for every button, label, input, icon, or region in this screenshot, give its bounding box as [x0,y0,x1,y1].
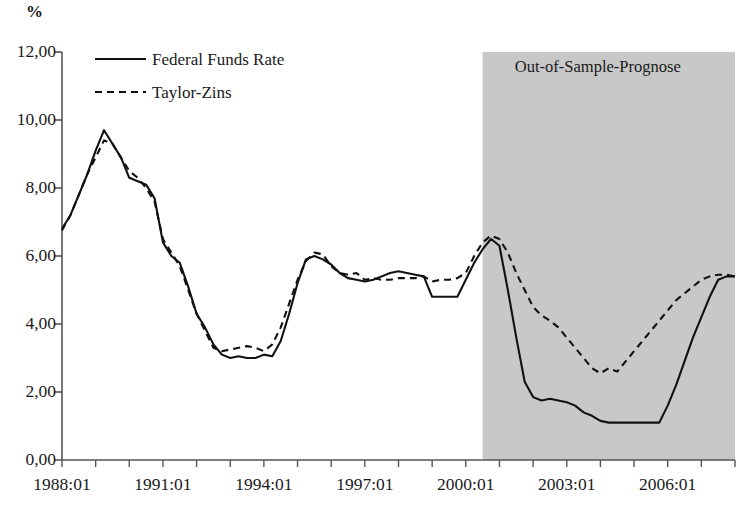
x-tick-label: 2000:01 [421,474,511,494]
y-tick-label: 8,00 [0,178,56,196]
y-tick-label: 2,00 [0,382,56,400]
x-tick-label: 1994:01 [219,474,309,494]
legend-item-taylor-zins: Taylor-Zins [152,83,232,102]
y-tick-label: 12,00 [0,42,56,60]
out-of-sample-shading [483,52,735,460]
x-tick-label: 1988:01 [17,474,107,494]
x-tick-label: 1991:01 [118,474,208,494]
x-tick-label: 1997:01 [320,474,410,494]
chart-container: % Out-of-Sample-Prognose Federal Funds R… [0,0,743,522]
y-tick-label: 6,00 [0,246,56,264]
legend-item-federal-funds-rate: Federal Funds Rate [152,50,284,69]
chart-plot-area [0,0,743,522]
x-tick-label: 2003:01 [522,474,612,494]
y-tick-label: 10,00 [0,110,56,128]
y-tick-label: 0,00 [0,450,56,468]
y-tick-label: 4,00 [0,314,56,332]
legend-swatches [95,59,146,92]
out-of-sample-label: Out-of-Sample-Prognose [515,58,681,76]
x-tick-label: 2006:01 [623,474,713,494]
